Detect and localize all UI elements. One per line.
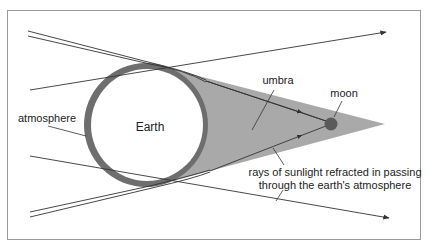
moon (325, 118, 338, 131)
atmosphere-label: atmosphere (18, 112, 76, 124)
moon-label: moon (330, 87, 358, 99)
refraction-label-line1: rays of sunlight refracted in passing (248, 166, 421, 178)
umbra-label: umbra (262, 74, 294, 86)
refraction-label-line2: through the earth's atmosphere (259, 179, 412, 191)
earth-label: Earth (136, 120, 165, 134)
lunar-eclipse-diagram: Earth atmosphere umbra moon rays of sunl… (0, 0, 429, 248)
